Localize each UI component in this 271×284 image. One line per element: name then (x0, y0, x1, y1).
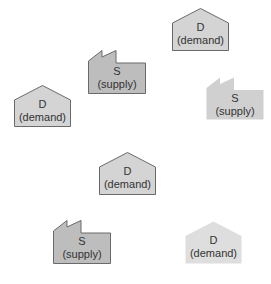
supply-caption: (supply) (88, 78, 146, 91)
demand-letter: D (99, 165, 156, 178)
supply-node: S(supply) (53, 220, 111, 264)
demand-node: D(demand) (172, 8, 229, 51)
demand-letter: D (185, 234, 242, 247)
demand-letter: D (14, 98, 71, 111)
demand-node: D(demand) (185, 221, 242, 264)
supply-node: S(supply) (206, 77, 264, 120)
supply-letter: S (53, 235, 111, 248)
supply-caption: (supply) (206, 105, 264, 118)
demand-caption: (demand) (172, 34, 229, 47)
demand-caption: (demand) (14, 111, 71, 124)
supply-letter: S (206, 92, 264, 105)
demand-letter: D (172, 21, 229, 34)
supply-node: S(supply) (88, 50, 146, 94)
demand-caption: (demand) (185, 247, 242, 260)
demand-node: D(demand) (99, 152, 156, 195)
supply-caption: (supply) (53, 248, 111, 261)
demand-node: D(demand) (14, 85, 71, 127)
supply-letter: S (88, 65, 146, 78)
demand-caption: (demand) (99, 178, 156, 191)
supply-demand-diagram: D(demand)S(supply)D(demand)S(supply)D(de… (0, 0, 271, 284)
